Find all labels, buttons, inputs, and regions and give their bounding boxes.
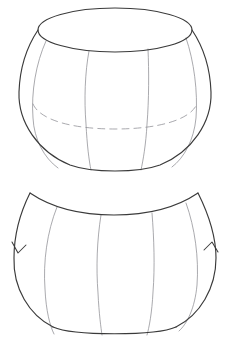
figure-page: Geometric solid of revolution and its de… <box>0 0 228 350</box>
geometry-illustration: Geometric solid of revolution and its de… <box>0 0 228 350</box>
